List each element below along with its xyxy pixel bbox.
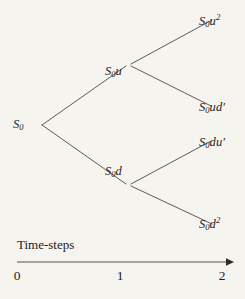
time-axis-group: [17, 258, 234, 266]
arrow-right-icon: [226, 258, 234, 266]
node-down-up-prime: ′: [222, 135, 225, 149]
node-up-up-tail: u: [210, 14, 216, 28]
tick-label-0: 0: [10, 269, 24, 283]
node-down-down-sub: 0: [205, 222, 209, 232]
node-up: S0u: [105, 65, 122, 78]
axis-title: Time-steps: [17, 238, 74, 251]
node-root: S0: [13, 118, 24, 131]
node-down: S0d: [105, 165, 122, 178]
node-up-up-sup: 2: [216, 12, 220, 22]
tick-label-1: 1: [113, 269, 127, 283]
node-root-sub: 0: [19, 122, 23, 132]
node-up-tail: u: [116, 64, 122, 78]
tick-label-2: 2: [215, 269, 229, 283]
node-up-up: S0u2: [199, 15, 220, 28]
node-down-tail: d: [116, 164, 122, 178]
node-down-up: S0du′: [199, 136, 225, 149]
node-up-down-tail: ud: [210, 100, 223, 114]
node-down-down-tail: d: [210, 217, 216, 231]
node-up-sub: 0: [111, 69, 115, 79]
node-down-up-sub: 0: [205, 140, 209, 150]
node-down-down: S0d2: [199, 218, 220, 231]
node-up-down: S0ud′: [199, 101, 225, 114]
node-up-down-prime: ′: [222, 100, 225, 114]
node-down-down-sup: 2: [216, 215, 220, 225]
node-down-up-tail: du: [210, 135, 223, 149]
node-up-down-sub: 0: [205, 105, 209, 115]
node-up-up-sub: 0: [205, 19, 209, 29]
node-down-sub: 0: [111, 169, 115, 179]
binomial-tree-figure: S0 S0u S0d S0u2 S0ud′ S0du′ S0d2 Time-st…: [0, 0, 245, 299]
